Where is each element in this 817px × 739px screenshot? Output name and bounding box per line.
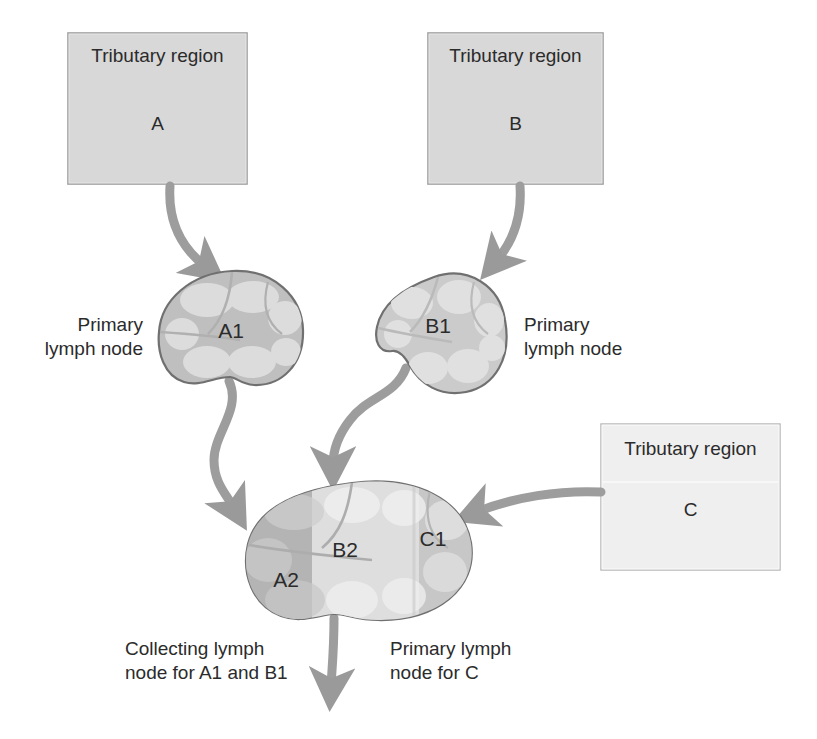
lymph-node-b1-shape (376, 274, 506, 393)
arrow-region-b-to-node-b1 (497, 186, 520, 260)
diagram-canvas (0, 0, 817, 739)
collecting-lymph-node-shape (240, 470, 479, 630)
lymph-node-a1-shape (159, 271, 303, 385)
arrow-region-a-to-node-a1 (170, 186, 205, 266)
arrow-node-a1-to-zone-a2 (214, 381, 234, 508)
lymphatic-drainage-diagram: Tributary region A Tributary region B Tr… (0, 0, 817, 739)
arrow-node-b1-to-zone-b2 (333, 368, 406, 465)
tributary-region-b-box (428, 33, 603, 184)
arrow-collecting-node-efferent (331, 618, 334, 686)
tributary-region-c-box (601, 424, 780, 570)
zone-c1-fill (419, 470, 479, 630)
arrow-region-c-to-zone-c1 (477, 492, 601, 512)
tributary-region-a-box (68, 33, 247, 184)
